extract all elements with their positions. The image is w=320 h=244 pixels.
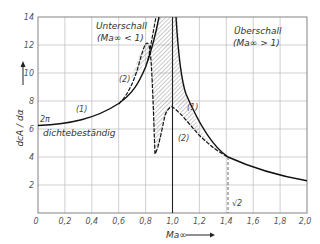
svg-text:0,2: 0,2 [59,217,72,226]
svg-text:0,4: 0,4 [85,217,98,226]
x-axis-label: Ma∞ [166,230,187,240]
x-axis-arrow-icon [186,233,215,238]
svg-text:8: 8 [29,97,34,106]
chart-canvas: 2 4 6 8 10 12 14 0 0,2 0,4 0,6 0,8 1,0 1… [0,0,320,244]
sqrt2-label: √2 [232,199,242,208]
two-pi-label: 2π [40,115,50,124]
svg-text:2,0: 2,0 [299,217,312,226]
svg-text:4: 4 [29,153,34,162]
svg-text:0: 0 [33,217,38,226]
curve-1-label-sup: (1) [187,103,198,112]
subsonic-condition: (Ma∞ < 1) [97,33,144,43]
svg-text:0,8: 0,8 [139,217,152,226]
svg-text:0,6: 0,6 [112,217,125,226]
svg-text:6: 6 [29,125,34,134]
svg-text:1,0: 1,0 [166,217,179,226]
x-tick-labels: 0 0,2 0,4 0,6 0,8 1,0 1,2 1,4 1,6 1,8 2,… [33,217,311,226]
svg-text:1,2: 1,2 [193,217,206,226]
supersonic-title: Überschall [234,26,282,36]
y-tick-labels: 2 4 6 8 10 12 14 [24,13,34,190]
svg-text:10: 10 [24,69,34,78]
curve-1-label-sub: (1) [76,105,87,114]
svg-text:12: 12 [24,41,34,50]
svg-text:1,6: 1,6 [247,217,260,226]
curve-2-label-sup: (2) [178,134,189,143]
curve-2-label-sub: (2) [119,75,130,84]
supersonic-condition: (Ma∞ > 1) [233,38,280,48]
subsonic-title: Unterschall [96,21,147,31]
svg-text:2: 2 [29,181,34,190]
svg-text:1,8: 1,8 [274,217,287,226]
svg-text:14: 14 [24,13,34,22]
y-axis-label: dcA / dα [15,109,25,146]
incompressible-label: dichtebeständig [43,128,116,138]
svg-text:1,4: 1,4 [220,217,233,226]
